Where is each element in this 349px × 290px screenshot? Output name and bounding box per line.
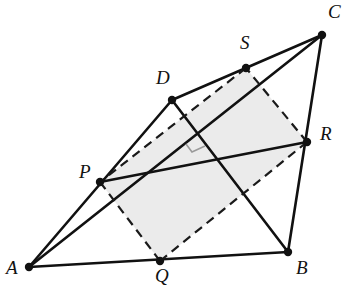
vertex-label-a: A <box>6 258 18 277</box>
vertex-label-s: S <box>240 33 250 52</box>
vertex-dot-c <box>318 31 326 39</box>
vertex-label-r: R <box>320 124 332 143</box>
vertex-label-d: D <box>156 68 170 87</box>
vertex-label-c: C <box>328 2 341 21</box>
vertex-dot-q <box>156 257 164 265</box>
vertex-dot-p <box>96 178 104 186</box>
vertex-label-b: B <box>296 258 308 277</box>
vertex-dot-a <box>25 263 33 271</box>
vertex-dot-s <box>242 64 250 72</box>
vertex-dot-b <box>284 248 292 256</box>
vertex-dot-r <box>303 138 311 146</box>
vertex-label-p: P <box>79 162 91 181</box>
geometry-canvas <box>0 0 349 290</box>
quadrilateral-PQRS-fill <box>100 68 307 261</box>
vertex-label-q: Q <box>155 266 169 285</box>
geometry-figure: ABCDPQRS <box>0 0 349 290</box>
vertex-dot-d <box>168 96 176 104</box>
